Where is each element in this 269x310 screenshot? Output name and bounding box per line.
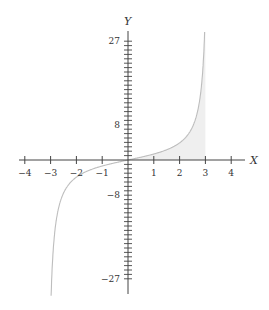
x-tick-label: 3: [203, 168, 209, 178]
y-tick-label: −27: [101, 274, 120, 284]
x-tick-label: 1: [151, 168, 157, 178]
x-axis-label: X: [249, 154, 259, 167]
x-tick-label: −2: [70, 168, 83, 178]
chart: −4−3−2−11234 X 278−8−27 Y: [0, 0, 269, 310]
x-tick-label: 2: [177, 168, 183, 178]
shaded-area: [128, 32, 205, 160]
y-tick-label: −8: [107, 190, 121, 200]
y-axis: 278−8−27 Y: [101, 15, 133, 294]
y-tick-label: 27: [109, 36, 121, 46]
x-tick-label: −3: [44, 168, 58, 178]
x-tick-label: −1: [96, 168, 109, 178]
x-tick-label: 4: [228, 168, 234, 178]
y-tick-label: 8: [114, 120, 120, 130]
y-axis-label: Y: [124, 15, 133, 28]
x-tick-label: −4: [18, 168, 32, 178]
